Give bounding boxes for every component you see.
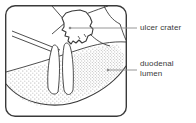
label-duodenal-lumen-line-2: lumen bbox=[140, 69, 174, 79]
illustration-interior bbox=[5, 5, 127, 117]
label-duodenal-lumen-line-1: duodenal bbox=[140, 59, 174, 68]
leader-dot-duodenal-lumen bbox=[107, 69, 110, 72]
label-ulcer-crater: ulcer crater bbox=[140, 23, 181, 33]
label-duodenal-lumen: duodenal lumen bbox=[140, 59, 174, 79]
leader-dot-ulcer-crater bbox=[69, 27, 72, 30]
duodenal-ulcer-figure: ulcer crater duodenal lumen bbox=[0, 0, 196, 123]
